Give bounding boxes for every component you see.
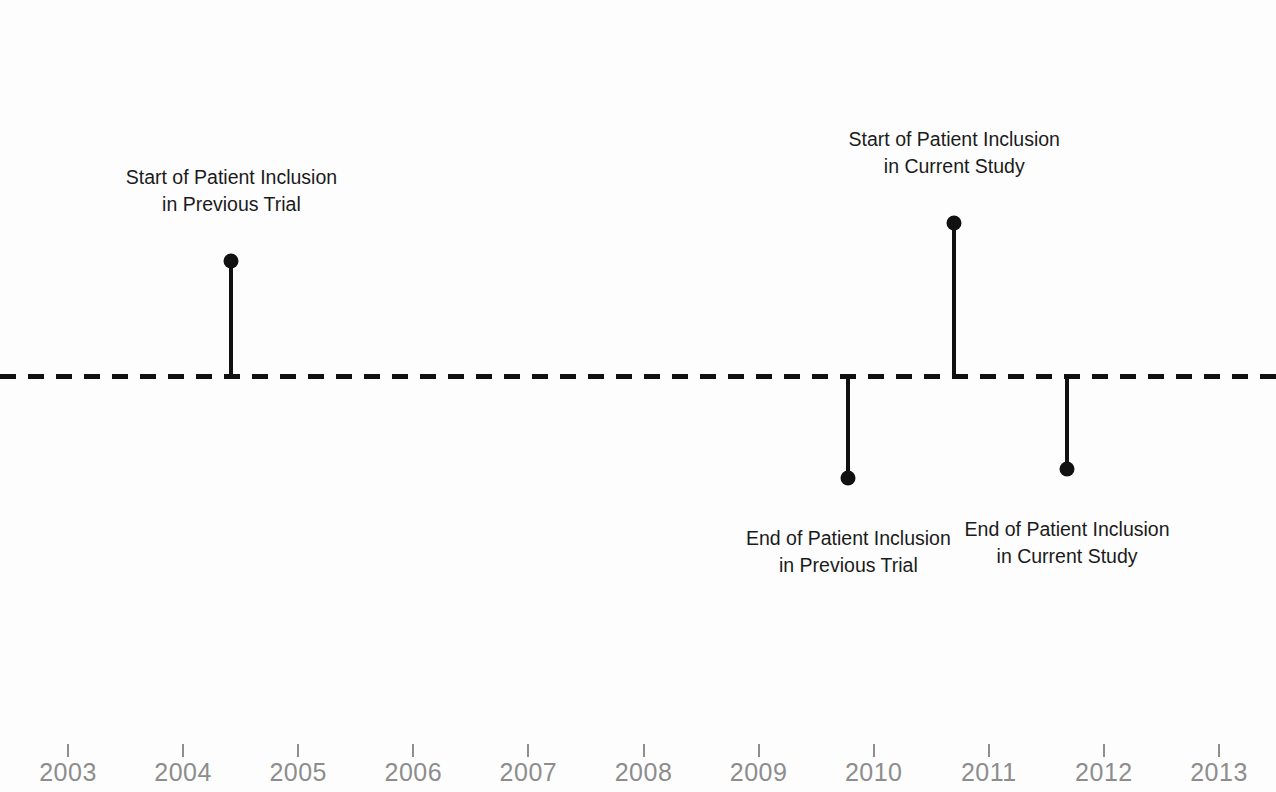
event-marker-end-current-study[interactable] — [1060, 461, 1075, 476]
x-axis-tick-label: 2013 — [1190, 758, 1248, 787]
x-axis-tick-label: 2003 — [39, 758, 97, 787]
event-label-line1: End of Patient Inclusion — [746, 525, 951, 552]
event-label-line2: in Previous Trial — [126, 191, 337, 218]
event-label-line1: Start of Patient Inclusion — [849, 126, 1060, 153]
event-label-line1: End of Patient Inclusion — [965, 516, 1170, 543]
event-label-end-previous-trial: End of Patient Inclusionin Previous Tria… — [746, 525, 951, 579]
event-stem-end-previous-trial — [846, 378, 850, 478]
x-axis: 2003200420052006200720082009201020112012… — [0, 0, 1276, 792]
timeline-baseline — [0, 374, 1276, 379]
event-label-end-current-study: End of Patient Inclusionin Current Study — [965, 516, 1170, 570]
event-marker-start-previous-trial[interactable] — [224, 253, 239, 268]
event-label-start-current-study: Start of Patient Inclusionin Current Stu… — [849, 126, 1060, 180]
timeline-figure: Study Timeline Start of Patient Inclusio… — [0, 0, 1276, 792]
event-stem-start-current-study — [952, 223, 956, 378]
x-axis-tick — [643, 744, 645, 757]
x-axis-tick — [182, 744, 184, 757]
x-axis-tick-label: 2012 — [1075, 758, 1133, 787]
x-axis-tick — [1103, 744, 1105, 757]
x-axis-tick — [1218, 744, 1220, 757]
x-axis-tick-label: 2007 — [500, 758, 558, 787]
event-label-line2: in Current Study — [849, 153, 1060, 180]
x-axis-tick — [758, 744, 760, 757]
x-axis-tick-label: 2004 — [154, 758, 212, 787]
event-marker-end-previous-trial[interactable] — [841, 471, 856, 486]
x-axis-tick — [67, 744, 69, 757]
x-axis-tick — [873, 744, 875, 757]
event-stem-end-current-study — [1065, 378, 1069, 469]
x-axis-tick — [297, 744, 299, 757]
x-axis-tick — [988, 744, 990, 757]
x-axis-tick-label: 2005 — [269, 758, 327, 787]
x-axis-tick-label: 2010 — [845, 758, 903, 787]
x-axis-tick-label: 2011 — [961, 758, 1017, 787]
event-label-start-previous-trial: Start of Patient Inclusionin Previous Tr… — [126, 164, 337, 218]
event-stem-start-previous-trial — [229, 261, 233, 378]
x-axis-tick — [527, 744, 529, 757]
x-axis-tick — [412, 744, 414, 757]
event-marker-start-current-study[interactable] — [947, 216, 962, 231]
x-axis-tick-label: 2006 — [384, 758, 442, 787]
event-label-line2: in Current Study — [965, 543, 1170, 570]
event-label-line2: in Previous Trial — [746, 552, 951, 579]
x-axis-tick-label: 2009 — [730, 758, 788, 787]
x-axis-tick-label: 2008 — [615, 758, 673, 787]
event-label-line1: Start of Patient Inclusion — [126, 164, 337, 191]
figure-title: Study Timeline — [0, 0, 1276, 6]
